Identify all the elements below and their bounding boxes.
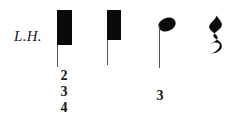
- music-notation-figure: L.H. 2 3 4 3: [0, 0, 250, 128]
- fingering-number: 3: [56, 84, 72, 100]
- fingering-number: 2: [56, 68, 72, 84]
- fingering-stack-first-cluster: 2 3 4: [56, 68, 72, 116]
- left-hand-indication: L.H.: [14, 28, 42, 45]
- cluster-notehead-block-1: [57, 10, 72, 45]
- note-stem-2: [107, 40, 108, 65]
- fingering-number: 4: [56, 100, 72, 116]
- quarter-rest-icon: [203, 14, 229, 60]
- fingering-number-quarter-note: 3: [152, 88, 168, 104]
- cluster-notehead-block-2: [107, 10, 121, 40]
- note-stem-3: [159, 26, 160, 68]
- note-stem-1: [57, 45, 58, 67]
